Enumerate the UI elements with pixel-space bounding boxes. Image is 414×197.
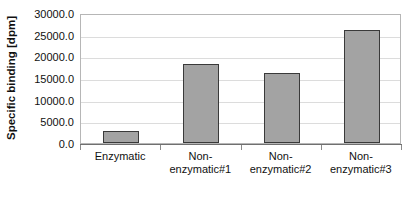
x-axis-tick-label: Non- enzymatic#2 [241,150,321,176]
x-axis-tick-label: Enzymatic [80,150,160,163]
bar [103,131,139,143]
y-axis-title-text: Specific binding [dpm] [5,16,17,140]
plot-area [80,14,401,144]
y-axis-tick-label: 20000.0 [18,52,74,63]
x-axis-tick-label: Non- enzymatic#1 [160,150,240,176]
x-axis-tick-mark [401,145,402,150]
y-axis-tick-label: 30000.0 [18,9,74,20]
y-axis-tick-label: 5000.0 [18,117,74,128]
x-axis-tick-mark [321,145,322,150]
x-axis-tick-mark [80,145,81,150]
x-axis-tick-labels: EnzymaticNon- enzymatic#1Non- enzymatic#… [80,150,402,195]
bar [264,73,300,143]
x-axis-tick-mark [160,145,161,150]
bar [183,64,219,143]
y-axis-tick-labels: 0.05000.010000.015000.020000.025000.0300… [20,0,77,160]
y-axis-tick-label: 10000.0 [18,95,74,106]
y-axis-tick-label: 15000.0 [18,74,74,85]
bar-chart: Specific binding [dpm] 0.05000.010000.01… [0,0,414,197]
x-axis-tick-label: Non- enzymatic#3 [321,150,401,176]
x-axis-tick-mark [241,145,242,150]
y-axis-tick-label: 25000.0 [18,30,74,41]
y-axis-tick-label: 0.0 [18,139,74,150]
bar [344,30,380,143]
